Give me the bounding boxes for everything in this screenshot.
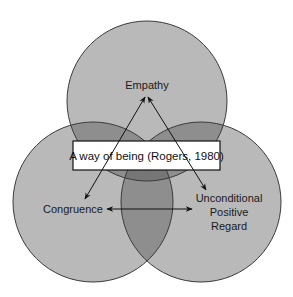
- label-empathy: Empathy: [125, 79, 169, 91]
- center-box-label: A way of being (Rogers, 1980): [69, 150, 224, 162]
- label-upr-line1: Unconditional: [196, 192, 263, 204]
- label-upr-line2: Positive: [210, 206, 249, 218]
- venn-diagram: A way of being (Rogers, 1980) Empathy Co…: [0, 0, 293, 297]
- label-congruence: Congruence: [43, 203, 103, 215]
- label-upr-line3: Regard: [211, 220, 247, 232]
